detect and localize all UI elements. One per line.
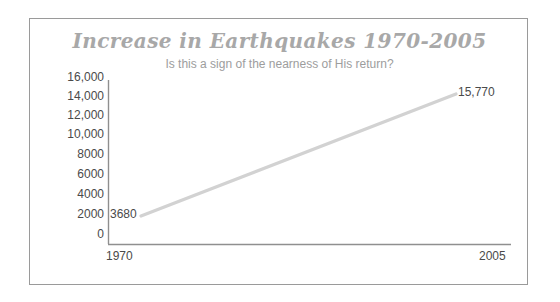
y-tick-label: 16,000 (30, 71, 104, 83)
data-series-line (141, 94, 456, 216)
x-tick-label: 2005 (479, 249, 506, 263)
x-tick-label: 1970 (106, 249, 133, 263)
y-tick-label: 2000 (30, 208, 104, 220)
y-tick-label: 0 (30, 228, 104, 240)
y-tick-label: 10,000 (30, 128, 104, 140)
y-tick-label: 12,000 (30, 109, 104, 121)
plot-area: 16,000 14,000 12,000 10,000 8000 6000 40… (30, 19, 529, 286)
y-tick-label: 14,000 (30, 90, 104, 102)
y-tick-label: 4000 (30, 188, 104, 200)
y-tick-label: 6000 (30, 168, 104, 180)
chart-plot-svg (30, 19, 529, 286)
data-point-label-start: 3680 (110, 207, 137, 221)
data-point-label-end: 15,770 (458, 85, 495, 99)
y-tick-label: 8000 (30, 148, 104, 160)
chart-frame: Increase in Earthquakes 1970-2005 Is thi… (29, 18, 528, 285)
y-axis-tick-labels: 16,000 14,000 12,000 10,000 8000 6000 40… (30, 71, 104, 243)
